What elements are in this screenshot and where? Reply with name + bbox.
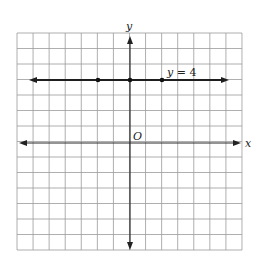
equation-value: = 4 [173,66,196,79]
point-2-4 [160,78,165,83]
line-right-arrow-icon [221,77,229,83]
y-axis-down-arrow-icon [127,242,133,250]
x-axis-right-arrow-icon [233,140,241,146]
origin-label: O [133,130,142,143]
point-0-4 [128,78,133,83]
x-axis-left-arrow-icon [19,140,27,146]
coordinate-plane: y x O y = 4 [0,0,263,269]
y-axis-label: y [125,20,133,33]
x-axis-label: x [245,137,252,150]
y-axis-up-arrow-icon [127,36,133,44]
equation-label: y = 4 [166,66,196,79]
point-neg2-4 [96,78,101,83]
